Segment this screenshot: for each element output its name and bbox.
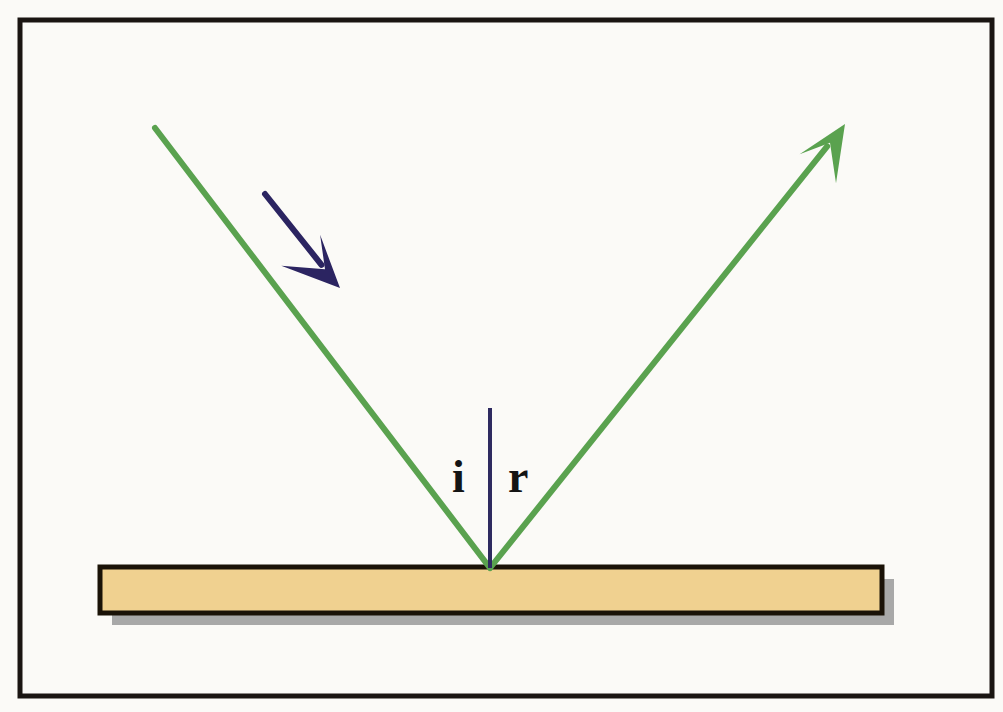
reflection-diagram: i r	[0, 0, 1003, 712]
figure-canvas: i r	[0, 0, 1003, 712]
label-angle-of-reflection: r	[508, 451, 528, 502]
mirror-surface	[100, 567, 882, 613]
label-angle-of-incidence: i	[452, 451, 465, 502]
